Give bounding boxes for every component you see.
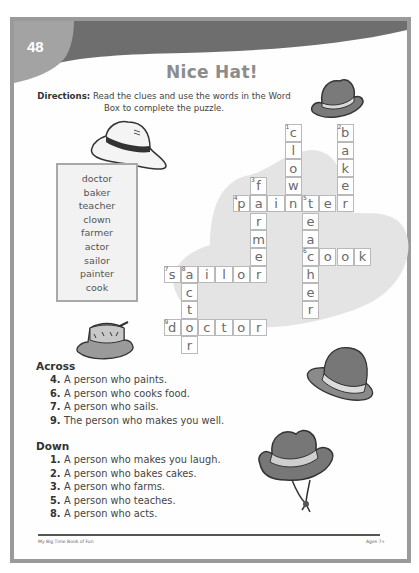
crossword-cell[interactable]: 8a	[181, 266, 198, 284]
crossword-cell[interactable]: o	[337, 248, 354, 266]
clue-number: 1	[286, 123, 290, 130]
clue-number: 9	[165, 318, 169, 325]
crossword-cell[interactable]: 6c	[302, 248, 319, 266]
word-box-item: clown	[83, 213, 110, 227]
crossword-cell[interactable]: c	[181, 283, 198, 301]
crossword-cell[interactable]: i	[198, 266, 215, 284]
crossword-cell[interactable]: r	[250, 266, 267, 284]
cell-letter: i	[274, 196, 278, 211]
cell-letter: l	[222, 267, 226, 282]
cell-letter: p	[237, 196, 245, 211]
cell-letter: d	[168, 320, 176, 335]
crossword-cell[interactable]: r	[337, 195, 354, 213]
word-box-item: farmer	[81, 226, 113, 240]
cell-letter: o	[341, 249, 349, 264]
cell-letter: k	[341, 161, 349, 176]
cell-letter: e	[307, 214, 315, 229]
cell-letter: m	[252, 232, 265, 247]
crossword-cell[interactable]: k	[354, 248, 371, 266]
fishing-hat-icon	[74, 318, 136, 362]
crossword-cell[interactable]: t	[181, 301, 198, 319]
cell-letter: o	[237, 320, 245, 335]
crossword-cell[interactable]: k	[337, 159, 354, 177]
crossword-cell[interactable]: a	[337, 142, 354, 160]
crossword-cell[interactable]: i	[267, 195, 284, 213]
cell-letter: c	[203, 320, 210, 335]
crossword-cell[interactable]: a	[250, 195, 267, 213]
cell-letter: i	[205, 267, 209, 282]
word-box-item: sailor	[84, 254, 110, 268]
cell-letter: o	[289, 161, 297, 176]
word-box-item: actor	[85, 240, 110, 254]
crossword-cell[interactable]: 7s	[164, 266, 181, 284]
cell-letter: w	[288, 178, 299, 193]
crossword-cell[interactable]: 3f	[250, 177, 267, 195]
clue-down-1: 1.A person who makes you laugh.	[36, 453, 221, 467]
footer-age-range: Ages 7+	[366, 539, 385, 544]
crossword-cell[interactable]: a	[302, 230, 319, 248]
crossword-cell[interactable]: l	[215, 266, 232, 284]
clue-down-3: 3.A person who farms.	[36, 480, 221, 494]
cell-letter: k	[359, 249, 367, 264]
crossword-cell[interactable]: o	[233, 266, 250, 284]
fedora-hat-icon	[306, 75, 366, 125]
cell-letter: a	[307, 232, 315, 247]
crossword-cell[interactable]: l	[285, 142, 302, 160]
clue-number: 4	[234, 194, 238, 201]
cell-letter: r	[308, 302, 313, 317]
cell-letter: t	[187, 302, 192, 317]
crossword-cell[interactable]: 9d	[164, 319, 181, 337]
crossword-cell[interactable]: o	[233, 319, 250, 337]
crossword-cell[interactable]: 4p	[233, 195, 250, 213]
footer-book-title: My Big Time Book of Fun	[38, 539, 94, 544]
crossword-cell[interactable]: e	[250, 248, 267, 266]
crossword-cell[interactable]: e	[337, 177, 354, 195]
crossword-cell[interactable]: r	[250, 213, 267, 231]
crossword-cell[interactable]: r	[302, 301, 319, 319]
word-box: doctor baker teacher clown farmer actor …	[56, 163, 138, 302]
crossword-cell[interactable]: w	[285, 177, 302, 195]
across-clues: Across 4.A person who paints. 6.A person…	[36, 360, 224, 427]
clue-across-4: 4.A person who paints.	[36, 373, 224, 387]
cell-letter: c	[186, 285, 193, 300]
crossword-cell[interactable]: 2b	[337, 124, 354, 142]
crossword-cell[interactable]: o	[181, 319, 198, 337]
crossword-cell[interactable]: m	[250, 230, 267, 248]
clue-across-9: 9.The person who makes you well.	[36, 414, 224, 428]
clue-number: 3	[251, 176, 255, 183]
crossword-cell[interactable]: 5t	[302, 195, 319, 213]
crossword-cell[interactable]: n	[285, 195, 302, 213]
crossword-cell[interactable]: c	[198, 319, 215, 337]
cell-letter: s	[169, 267, 176, 282]
cell-letter: r	[256, 267, 261, 282]
clue-across-7: 7.A person who sails.	[36, 400, 224, 414]
crossword-cell[interactable]: e	[319, 195, 336, 213]
crossword-cell[interactable]: r	[181, 336, 198, 354]
page-title: Nice Hat!	[166, 62, 258, 82]
crossword-cell[interactable]: 1c	[285, 124, 302, 142]
crossword-cell[interactable]: e	[302, 283, 319, 301]
crossword-cell[interactable]: o	[285, 159, 302, 177]
down-heading: Down	[36, 440, 221, 452]
cell-letter: a	[341, 143, 349, 158]
cell-letter: o	[185, 320, 193, 335]
cell-letter: l	[291, 143, 295, 158]
cell-letter: t	[308, 196, 313, 211]
cell-letter: e	[324, 196, 332, 211]
crossword-cell[interactable]: o	[319, 248, 336, 266]
clue-number: 5	[303, 194, 307, 201]
crossword-cell[interactable]: h	[302, 266, 319, 284]
crossword-cell[interactable]: e	[302, 213, 319, 231]
clue-number: 8	[182, 265, 186, 272]
word-box-item: cook	[86, 281, 108, 295]
clue-number: 6	[303, 247, 307, 254]
cell-letter: e	[341, 178, 349, 193]
directions-text: Read the clues and use the words in the …	[90, 91, 290, 113]
cell-letter: o	[324, 249, 332, 264]
bowler-hat-icon	[306, 344, 378, 406]
word-box-item: baker	[84, 186, 111, 200]
clue-number: 7	[165, 265, 169, 272]
crossword-cell[interactable]: t	[215, 319, 232, 337]
clue-down-2: 2.A person who bakes cakes.	[36, 467, 221, 481]
crossword-cell[interactable]: r	[250, 319, 267, 337]
